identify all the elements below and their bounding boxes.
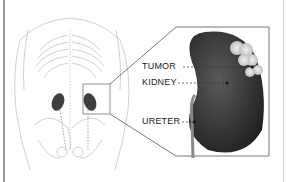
anatomy-diagram: [0, 0, 287, 182]
label-kidney: KIDNEY: [142, 77, 177, 87]
kidney-illustration: [189, 31, 264, 158]
label-ureter: URETER: [142, 116, 180, 126]
torso-outline: [15, 18, 129, 170]
body-kidneys: [49, 91, 98, 150]
label-tumor: TUMOR: [142, 61, 176, 71]
